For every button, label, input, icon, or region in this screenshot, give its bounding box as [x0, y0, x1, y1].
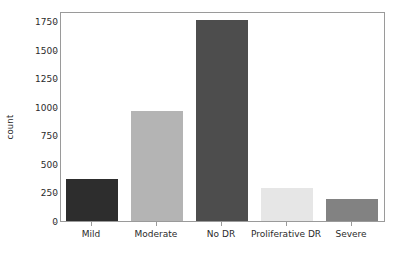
- y-tick-mark-1000: [54, 108, 58, 109]
- bar-no-dr[interactable]: [196, 20, 248, 221]
- y-tick-mark-1250: [54, 79, 58, 80]
- y-tick-label-1750: 1750: [18, 18, 58, 27]
- x-tick-mark-no-dr: [221, 222, 222, 226]
- y-tick-mark-500: [54, 165, 58, 166]
- plot-area: [60, 12, 385, 222]
- y-tick-label-1000: 1000: [18, 103, 58, 112]
- y-tick-mark-1750: [54, 22, 58, 23]
- x-tick-mark-moderate: [156, 222, 157, 226]
- x-tick-mark-mild: [91, 222, 92, 226]
- y-tick-label-750: 750: [18, 132, 58, 141]
- x-tick-mark-proliferative-dr: [286, 222, 287, 226]
- y-tick-label-0: 0: [18, 218, 58, 227]
- x-tick-mark-severe: [351, 222, 352, 226]
- y-axis-label: count: [0, 0, 20, 253]
- x-tick-label-mild: Mild: [82, 229, 100, 240]
- bar-mild[interactable]: [66, 179, 118, 221]
- y-tick-label-500: 500: [18, 160, 58, 169]
- x-tick-label-severe: Severe: [335, 229, 366, 240]
- y-tick-mark-1500: [54, 51, 58, 52]
- y-tick-mark-250: [54, 193, 58, 194]
- y-tick-mark-0: [54, 222, 58, 223]
- y-axis-tick-labels: 0 250 500 750 1000 1250 1500 1750: [18, 12, 58, 223]
- y-tick-label-250: 250: [18, 189, 58, 198]
- x-tick-label-moderate: Moderate: [135, 229, 178, 240]
- x-tick-label-proliferative-dr: Proliferative DR: [251, 229, 321, 240]
- y-tick-label-1500: 1500: [18, 46, 58, 55]
- bar-severe[interactable]: [326, 199, 378, 221]
- bar-chart-figure: count 0 250 500 750 1000 1250 1500 1750 …: [0, 0, 394, 253]
- x-tick-label-no-dr: No DR: [207, 229, 235, 240]
- bar-proliferative-dr[interactable]: [261, 188, 313, 221]
- y-axis-label-text: count: [5, 114, 15, 139]
- y-tick-mark-750: [54, 136, 58, 137]
- y-tick-label-1250: 1250: [18, 75, 58, 84]
- bar-moderate[interactable]: [131, 111, 183, 221]
